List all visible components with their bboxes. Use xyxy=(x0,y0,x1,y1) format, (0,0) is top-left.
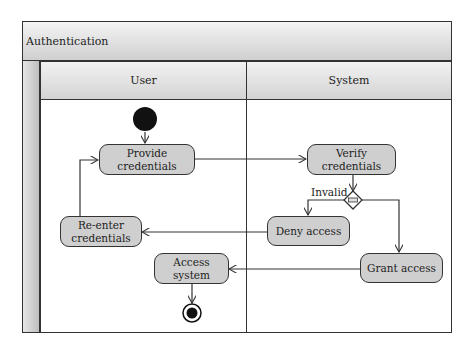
initial-node xyxy=(133,107,157,131)
edge-reenter-to-provide xyxy=(80,160,98,216)
action-reenter-credentials: Re-enter credentials xyxy=(60,216,142,247)
action-label: Access system xyxy=(155,256,228,281)
edge-decision-to-deny xyxy=(308,200,344,215)
action-grant-access: Grant access xyxy=(360,253,443,283)
action-label: Verify credentials xyxy=(308,147,395,172)
action-access-system: Access system xyxy=(154,253,229,284)
action-deny-access: Deny access xyxy=(267,216,350,246)
action-label-line2: credentials xyxy=(71,232,130,245)
action-verify-credentials: Verify credentials xyxy=(307,144,396,175)
edges-layer xyxy=(0,0,472,350)
final-node-inner xyxy=(187,308,198,319)
action-provide-credentials: Provide credentials xyxy=(99,144,195,175)
activity-diagram: Authentication User System xyxy=(0,0,472,350)
decision-inner-mark xyxy=(349,198,358,202)
edge-decision-to-grant xyxy=(362,200,399,252)
action-label: Deny access xyxy=(276,225,342,238)
action-label: Grant access xyxy=(367,262,436,275)
action-label-line1: Re-enter xyxy=(78,219,124,232)
action-label: Provide credentials xyxy=(100,147,194,172)
guard-invalid: Invalid xyxy=(311,186,348,198)
